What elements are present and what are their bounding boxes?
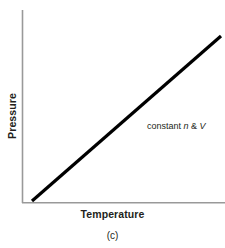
constant-n-and-v-annotation: constant n & V (147, 121, 206, 131)
pressure-temperature-figure: constant n & V Pressure Temperature (c) (0, 0, 225, 248)
plot-area: constant n & V (0, 0, 225, 208)
x-axis-title: Temperature (22, 208, 203, 220)
annotation-prefix: constant (147, 121, 184, 131)
annotation-conjunction: & (189, 121, 200, 131)
data-line-pressure-vs-temperature (32, 36, 221, 201)
annotation-variable-v: V (200, 121, 206, 131)
figure-caption: (c) (22, 230, 203, 241)
plot-svg (0, 0, 225, 208)
y-axis-title: Pressure (6, 71, 18, 161)
